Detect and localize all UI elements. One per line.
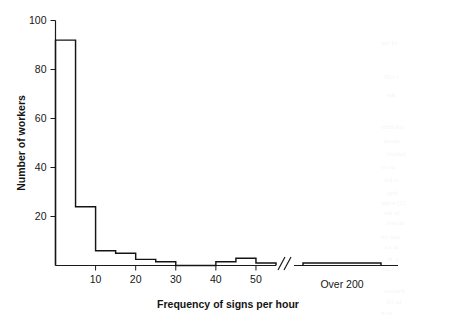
- y-tick-label-60: 60: [35, 112, 47, 124]
- x-tick-label-50: 50: [250, 273, 262, 285]
- x-axis-title: Frequency of signs per hour: [157, 298, 299, 310]
- y-tick-label-80: 80: [35, 63, 47, 75]
- x-axis-ticks: 1020304050: [90, 266, 262, 285]
- histogram-bars-main: [56, 40, 277, 265]
- x-tick-label-20: 20: [130, 273, 142, 285]
- axis-break-icon: [278, 257, 291, 270]
- y-axis-ticks: 20406080100: [29, 14, 56, 222]
- histogram-chart: 20406080100 1020304050 Over 200 Frequenc…: [0, 0, 455, 326]
- y-tick-label-40: 40: [35, 161, 47, 173]
- y-axis-title: Number of workers: [15, 95, 27, 191]
- y-tick-label-20: 20: [35, 210, 47, 222]
- y-tick-label-100: 100: [29, 14, 47, 26]
- x-tick-label-10: 10: [90, 273, 102, 285]
- figure-container: of thet willtherall timemeanbehaviue toc…: [0, 0, 455, 326]
- x-tick-label-30: 30: [170, 273, 182, 285]
- over-200-label: Over 200: [320, 278, 363, 290]
- x-tick-label-40: 40: [210, 273, 222, 285]
